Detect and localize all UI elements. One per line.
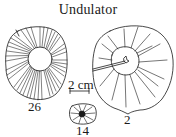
specimen-2-drawing [93, 26, 173, 114]
specimen-drawings [0, 0, 176, 137]
specimen-14-drawing [69, 104, 96, 124]
specimen-label-26: 26 [28, 100, 41, 113]
scale-bar-label: 2 cm [68, 78, 94, 91]
specimen-label-2: 2 [124, 113, 131, 126]
specimen-26-drawing [6, 27, 68, 100]
specimen-label-14: 14 [76, 124, 89, 137]
